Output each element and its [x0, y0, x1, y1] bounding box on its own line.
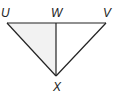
segment-vx: [56, 23, 106, 76]
label-x: X: [52, 80, 62, 94]
label-v: V: [103, 6, 112, 20]
label-w: W: [51, 6, 64, 20]
label-u: U: [1, 6, 10, 20]
triangle-diagram: U W V X: [0, 0, 121, 101]
